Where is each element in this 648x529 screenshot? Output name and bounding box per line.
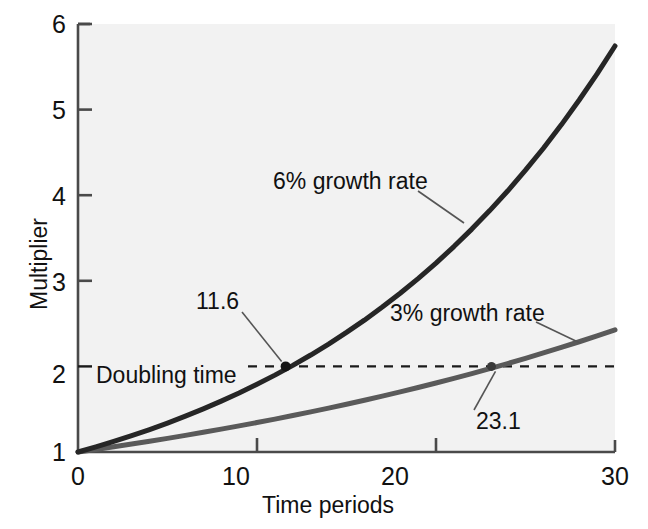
annotation-label-23-1: 23.1 (476, 408, 521, 435)
chart-canvas (0, 0, 648, 529)
growth-multiplier-chart: 6 5 4 3 2 1 0 10 20 30 Multiplier Time p… (0, 0, 648, 529)
y-tick-label-4: 4 (30, 184, 66, 209)
annotation-label-11-6: 11.6 (196, 288, 239, 315)
x-axis-title: Time periods (262, 492, 394, 519)
y-tick-label-6: 6 (30, 12, 66, 37)
x-tick-label-30: 30 (595, 464, 635, 489)
x-tick-label-0: 0 (58, 464, 98, 489)
y-axis-title: Multiplier (26, 218, 53, 310)
marker-doubling-point-3pct (487, 362, 496, 371)
x-tick-label-10: 10 (216, 464, 256, 489)
y-tick-label-5: 5 (30, 98, 66, 123)
series-label-6-percent: 6% growth rate (273, 168, 428, 195)
x-tick-label-20: 20 (375, 464, 415, 489)
y-tick-label-2: 2 (30, 362, 66, 387)
marker-doubling-point-6pct (281, 361, 291, 371)
y-tick-label-1: 1 (30, 440, 66, 465)
doubling-time-label: Doubling time (96, 362, 237, 389)
series-label-3-percent: 3% growth rate (390, 300, 545, 327)
